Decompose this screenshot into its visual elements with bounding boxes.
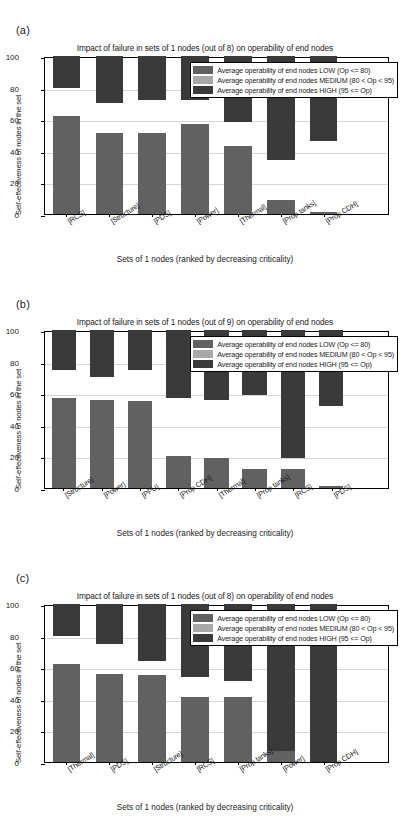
y-tick-label: 100	[0, 327, 19, 336]
bar-segment-medium[interactable]	[281, 458, 305, 469]
panel-letter: (a)	[16, 24, 30, 36]
bar-slot	[45, 606, 88, 762]
legend-item-medium: Average operability of end nodes MEDIUM …	[193, 75, 394, 85]
bar-segment-medium[interactable]	[204, 400, 228, 458]
legend-swatch-high	[193, 634, 213, 642]
bar-segment-low[interactable]	[53, 116, 80, 214]
bar-segment-high[interactable]	[96, 604, 123, 644]
panel-a: (a) Impact of failure in sets of 1 nodes…	[0, 0, 410, 274]
bar-segment-high[interactable]	[138, 604, 165, 661]
bar-segment-low[interactable]	[96, 133, 123, 214]
figure-page: (a) Impact of failure in sets of 1 nodes…	[0, 0, 410, 822]
stacked-bar[interactable]	[96, 58, 123, 214]
stacked-bar[interactable]	[53, 58, 80, 214]
bar-segment-high[interactable]	[166, 330, 190, 398]
bar-segment-medium[interactable]	[96, 103, 123, 133]
legend-label: Average operability of end nodes MEDIUM …	[217, 624, 394, 633]
legend: Average operability of end nodes LOW (Op…	[190, 336, 398, 372]
bar-segment-high[interactable]	[52, 330, 76, 370]
bar-segment-medium[interactable]	[224, 122, 251, 146]
stacked-bar[interactable]	[53, 606, 80, 762]
bar-segment-low[interactable]	[181, 697, 208, 762]
legend-swatch-high	[193, 360, 213, 368]
chart-title: Impact of failure in sets of 1 nodes (ou…	[0, 43, 410, 53]
bar-segment-low[interactable]	[181, 124, 208, 214]
bar-segment-high[interactable]	[128, 330, 152, 370]
stacked-bar[interactable]	[96, 606, 123, 762]
bar-segment-medium[interactable]	[181, 100, 208, 124]
bar-segment-high[interactable]	[96, 56, 123, 103]
bar-segment-medium[interactable]	[53, 636, 80, 664]
y-tick-label: 60	[0, 664, 19, 673]
legend-item-high: Average operability of end nodes HIGH (9…	[193, 85, 394, 95]
panel-letter: (b)	[16, 298, 30, 310]
bar-slot	[121, 332, 159, 488]
y-tick-label: 20	[0, 453, 19, 462]
legend: Average operability of end nodes LOW (Op…	[190, 610, 398, 646]
bar-segment-medium[interactable]	[319, 406, 343, 487]
panel-b: (b) Impact of failure in sets of 1 nodes…	[0, 274, 410, 548]
x-axis-label: Sets of 1 nodes (ranked by decreasing cr…	[0, 255, 410, 264]
stacked-bar[interactable]	[52, 332, 76, 488]
bar-segment-low[interactable]	[90, 400, 114, 488]
chart-title: Impact of failure in sets of 1 nodes (ou…	[0, 591, 410, 601]
legend-label: Average operability of end nodes LOW (Op…	[217, 614, 370, 623]
legend-swatch-low	[193, 66, 213, 74]
y-tick-label: 100	[0, 601, 19, 610]
bar-segment-medium[interactable]	[138, 661, 165, 675]
bar-segment-high[interactable]	[53, 604, 80, 636]
legend-item-low: Average operability of end nodes LOW (Op…	[193, 613, 394, 623]
stacked-bar[interactable]	[90, 332, 114, 488]
legend-label: Average operability of end nodes LOW (Op…	[217, 66, 370, 75]
panel-letter: (c)	[16, 572, 29, 584]
bar-segment-low[interactable]	[242, 469, 266, 488]
y-tick-label: 80	[0, 358, 19, 367]
bar-segment-high[interactable]	[53, 56, 80, 88]
legend-item-high: Average operability of end nodes HIGH (9…	[193, 633, 394, 643]
bar-slot	[131, 58, 174, 214]
y-tick-label: 80	[0, 632, 19, 641]
legend-item-medium: Average operability of end nodes MEDIUM …	[193, 349, 394, 359]
bar-segment-low[interactable]	[224, 146, 251, 214]
y-tick-label: 0	[0, 485, 19, 494]
bar-segment-medium[interactable]	[224, 681, 251, 697]
stacked-bar[interactable]	[138, 606, 165, 762]
stacked-bar[interactable]	[128, 332, 152, 488]
bar-segment-low[interactable]	[52, 398, 76, 488]
bar-segment-medium[interactable]	[181, 677, 208, 698]
bar-segment-medium[interactable]	[96, 644, 123, 674]
bar-slot	[45, 58, 88, 214]
stacked-bar[interactable]	[166, 332, 190, 488]
bar-segment-medium[interactable]	[128, 370, 152, 402]
bar-slot	[45, 332, 83, 488]
legend-item-high: Average operability of end nodes HIGH (9…	[193, 359, 394, 369]
chart-title: Impact of failure in sets of 1 nodes (ou…	[0, 317, 410, 327]
y-tick-label: 80	[0, 84, 19, 93]
bar-segment-low[interactable]	[224, 697, 251, 762]
y-tick-label: 0	[0, 759, 19, 768]
bar-segment-medium[interactable]	[267, 160, 294, 200]
panel-c: (c) Impact of failure in sets of 1 nodes…	[0, 548, 410, 822]
legend-label: Average operability of end nodes HIGH (9…	[217, 634, 371, 643]
stacked-bar[interactable]	[138, 58, 165, 214]
bar-segment-low[interactable]	[166, 456, 190, 488]
bar-segment-low[interactable]	[96, 674, 123, 762]
legend-label: Average operability of end nodes HIGH (9…	[217, 86, 371, 95]
bar-segment-medium[interactable]	[138, 100, 165, 133]
y-tick-label: 0	[0, 211, 19, 220]
bar-segment-low[interactable]	[138, 133, 165, 214]
bar-segment-high[interactable]	[138, 56, 165, 100]
bar-segment-medium[interactable]	[53, 88, 80, 116]
legend-swatch-medium	[193, 350, 213, 358]
legend: Average operability of end nodes LOW (Op…	[190, 62, 398, 98]
bar-segment-low[interactable]	[138, 675, 165, 762]
bar-segment-low[interactable]	[128, 401, 152, 488]
legend-item-low: Average operability of end nodes LOW (Op…	[193, 339, 394, 349]
bar-segment-low[interactable]	[53, 664, 80, 762]
bar-segment-medium[interactable]	[90, 377, 114, 399]
bar-segment-high[interactable]	[90, 330, 114, 377]
bar-segment-medium[interactable]	[52, 370, 76, 398]
x-axis-label: Sets of 1 nodes (ranked by decreasing cr…	[0, 529, 410, 538]
bar-segment-medium[interactable]	[242, 395, 266, 469]
bar-segment-medium[interactable]	[166, 398, 190, 456]
